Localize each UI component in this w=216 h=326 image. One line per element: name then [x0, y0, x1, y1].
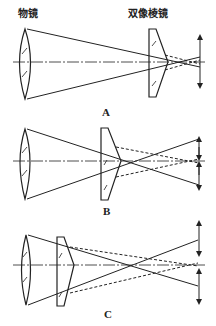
objective-lens-icon [22, 235, 31, 305]
objective-lens-icon [20, 29, 31, 99]
objective-lens-icon [20, 129, 30, 199]
biprism-icon [101, 128, 121, 200]
panel-b [13, 128, 205, 200]
biprism-icon [149, 29, 168, 97]
panel-a [13, 29, 205, 99]
biprism-optics-diagram [0, 0, 216, 326]
panel-c [13, 223, 205, 306]
